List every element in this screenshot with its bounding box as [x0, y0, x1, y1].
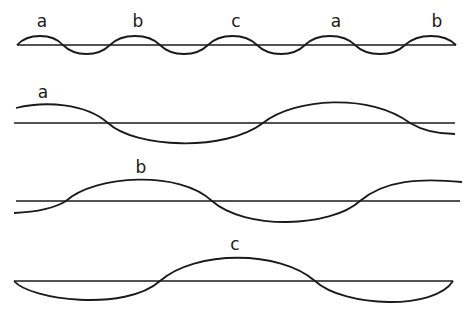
row-combined-wave: a b c a b — [17, 11, 456, 54]
crest-label-a-2: a — [331, 11, 341, 31]
crest-label-b-1: b — [133, 11, 144, 31]
row-wave-a: a — [14, 82, 455, 143]
row-wave-b: b — [14, 157, 462, 222]
crest-label-b: b — [136, 157, 147, 177]
row-wave-c: c — [14, 234, 453, 302]
crest-label-c-1: c — [231, 11, 240, 31]
crest-label-a-1: a — [37, 11, 47, 31]
crest-label-c: c — [230, 234, 239, 254]
crest-label-b-2: b — [432, 11, 443, 31]
long-wave-c — [14, 258, 453, 302]
wave-diagram: a b c a b a b c — [0, 0, 471, 318]
crest-label-a: a — [38, 82, 48, 102]
